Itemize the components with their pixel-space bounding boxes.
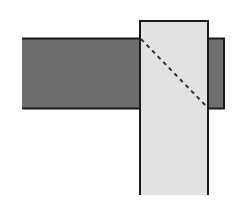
vertical-member — [140, 21, 208, 195]
diagram-canvas — [0, 0, 237, 205]
